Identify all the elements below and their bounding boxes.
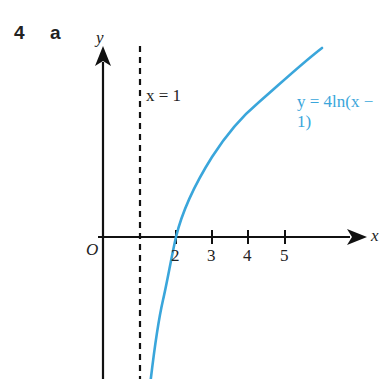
graph-figure (0, 0, 387, 379)
origin-label: O (86, 240, 98, 260)
x-axis-label: x (371, 226, 379, 246)
asymptote-label: x = 1 (146, 86, 181, 106)
x-tick-label-4: 4 (243, 246, 252, 266)
x-tick-label-3: 3 (207, 246, 216, 266)
curve-label: y = 4ln(x − 1) (297, 92, 387, 132)
y-axis-label: y (96, 28, 104, 48)
x-tick-label-5: 5 (280, 246, 289, 266)
x-tick-label-2: 2 (171, 246, 180, 266)
